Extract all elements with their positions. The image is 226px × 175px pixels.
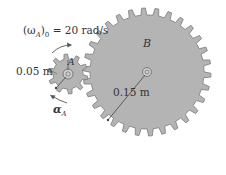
alpha-subscript: A [61,110,66,118]
gear-b-radius-label: 0.15 m [113,87,150,98]
omega-value: = 20 rad/s [49,24,108,36]
initial-angular-velocity-label: (ωA)0 = 20 rad/s [23,25,108,39]
omega-arrow-icon [52,43,72,54]
gear-a-hub [63,69,73,79]
alpha-arrow-icon [50,95,67,103]
gear-b-label: B [143,38,151,49]
gear-b-hub [143,68,152,77]
gear-b-radius-endpoint [107,119,109,121]
omega-symbol: (ω [23,24,36,36]
gear-diagram: (ωA)0 = 20 rad/s 0.05 m 0.15 m B A αA [0,0,226,175]
gear-a-radius-label: 0.05 m [16,66,53,77]
angular-acceleration-label: αA [53,104,67,118]
gear-a-radius-endpoint [55,87,57,89]
gear-a-label: A [68,58,75,67]
